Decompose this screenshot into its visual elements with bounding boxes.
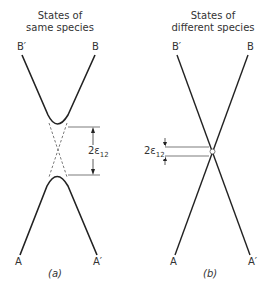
label-b-prime-a: B′ — [17, 42, 26, 52]
caption-b: (b) — [203, 268, 217, 279]
label-a-prime-b: A′ — [248, 257, 257, 267]
label-b-b: B — [247, 42, 254, 52]
label-a-prime-a: A′ — [93, 257, 102, 267]
panel-b-curves — [160, 55, 250, 255]
crossing-point — [210, 149, 215, 154]
diagram-canvas — [0, 0, 273, 290]
label-b-a: B — [92, 42, 99, 52]
label-a-a: A — [15, 257, 22, 267]
dashed-diabatic-2 — [49, 123, 67, 177]
upper-curve — [22, 55, 95, 124]
line-bprime-to-aprime — [177, 55, 250, 255]
label-a-b: A — [170, 257, 177, 267]
gap-label-a: 2ε12 — [88, 145, 109, 159]
gap-label-b: 2ε12 — [144, 145, 165, 159]
caption-a: (a) — [48, 268, 62, 279]
label-b-prime-b: B′ — [172, 42, 181, 52]
arrowhead-up-icon — [91, 127, 95, 133]
lower-curve — [20, 177, 97, 256]
line-b-to-a — [175, 55, 248, 255]
arrowhead-down-icon — [91, 169, 95, 175]
